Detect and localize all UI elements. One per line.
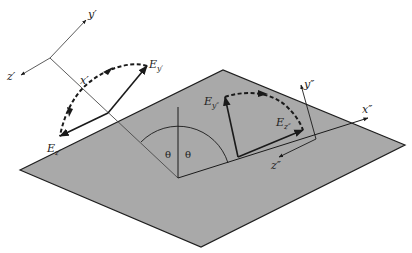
label-e-y-prime: Ey′ xyxy=(148,58,163,73)
label-e-y-double-prime-sub: y″ xyxy=(211,101,219,110)
reflecting-plane xyxy=(20,70,405,247)
label-e-z-prime-base: E xyxy=(46,142,55,155)
label-y-double-prime: y″ xyxy=(303,78,315,91)
label-y-prime: y′ xyxy=(87,8,97,21)
incident-field-y-vector xyxy=(108,66,147,113)
label-e-z-double-prime-base: E xyxy=(275,116,284,129)
label-e-y-prime-sub: y′ xyxy=(156,64,163,73)
reflection-diagram: y′ z′ x′ Ey′ Ez′ y″ x″ z″ Ey″ Ez″ θ θ xyxy=(0,0,412,253)
label-e-y-double-prime-base: E xyxy=(203,95,212,108)
label-e-z-double-prime-sub: z″ xyxy=(283,122,291,131)
incident-arc-arrowhead-1 xyxy=(103,67,113,75)
label-z-prime: z′ xyxy=(6,70,16,83)
y-prime-axis xyxy=(50,20,86,58)
label-angle-reflection: θ xyxy=(185,149,191,160)
z-prime-axis xyxy=(21,58,50,75)
label-e-z-prime-sub: z′ xyxy=(54,148,61,157)
label-e-z-prime: Ez′ xyxy=(46,142,61,157)
label-x-prime: x′ xyxy=(80,74,89,87)
label-e-y-prime-base: E xyxy=(148,58,157,71)
label-z-double-prime: z″ xyxy=(270,159,282,172)
label-x-double-prime: x″ xyxy=(362,103,373,116)
label-angle-incidence: θ xyxy=(165,149,171,160)
